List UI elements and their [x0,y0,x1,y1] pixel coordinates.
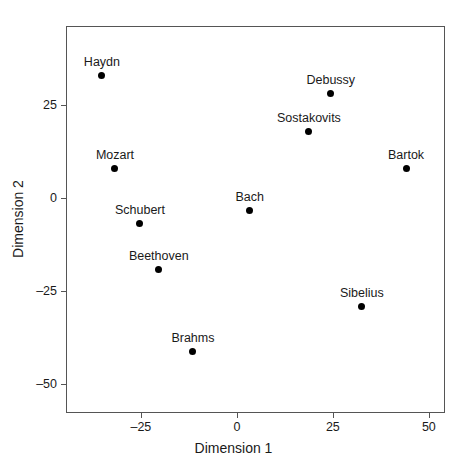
point-label: Bach [236,191,265,204]
x-axis-tick [141,413,142,418]
point-marker-dot-icon [155,266,162,273]
y-axis-tick-label: –25 [36,285,57,298]
x-axis-label: Dimension 1 [0,440,467,456]
point-marker-dot-icon [111,165,118,172]
x-axis-tick-label: 50 [422,421,436,434]
plot-area: HaydnMozartSchubertBeethovenBrahmsBachSo… [66,26,445,413]
y-axis-tick-label: –50 [36,378,57,391]
point-label: Schubert [115,204,165,217]
point-label: Haydn [84,56,120,69]
point-marker-dot-icon [246,207,253,214]
x-axis-tick [429,413,430,418]
y-axis-tick-label: 25 [43,99,57,112]
point-label: Beethoven [129,250,189,263]
point-label: Sibelius [340,287,384,300]
scatter-plot-figure: HaydnMozartSchubertBeethovenBrahmsBachSo… [0,0,467,465]
x-axis-tick-label: 0 [233,421,240,434]
point-marker-dot-icon [305,128,312,135]
point-marker-dot-icon [327,90,334,97]
point-label: Debussy [306,74,355,87]
point-marker-dot-icon [403,165,410,172]
y-axis-label: Dimension 2 [10,180,26,258]
y-axis-tick-label: 0 [50,192,57,205]
x-axis-tick [237,413,238,418]
y-axis-tick [61,291,66,292]
x-axis-tick-label: 25 [326,421,340,434]
y-axis-tick [61,384,66,385]
point-marker-dot-icon [98,72,105,79]
point-label: Bartok [388,149,424,162]
y-axis-tick [61,105,66,106]
point-label: Brahms [171,332,214,345]
y-axis-tick [61,198,66,199]
data-points-layer: HaydnMozartSchubertBeethovenBrahmsBachSo… [67,27,444,412]
point-marker-dot-icon [189,348,196,355]
x-axis-tick [333,413,334,418]
point-marker-dot-icon [358,303,365,310]
point-label: Sostakovits [277,112,341,125]
point-label: Mozart [96,149,134,162]
point-marker-dot-icon [136,220,143,227]
x-axis-tick-label: –25 [130,421,151,434]
